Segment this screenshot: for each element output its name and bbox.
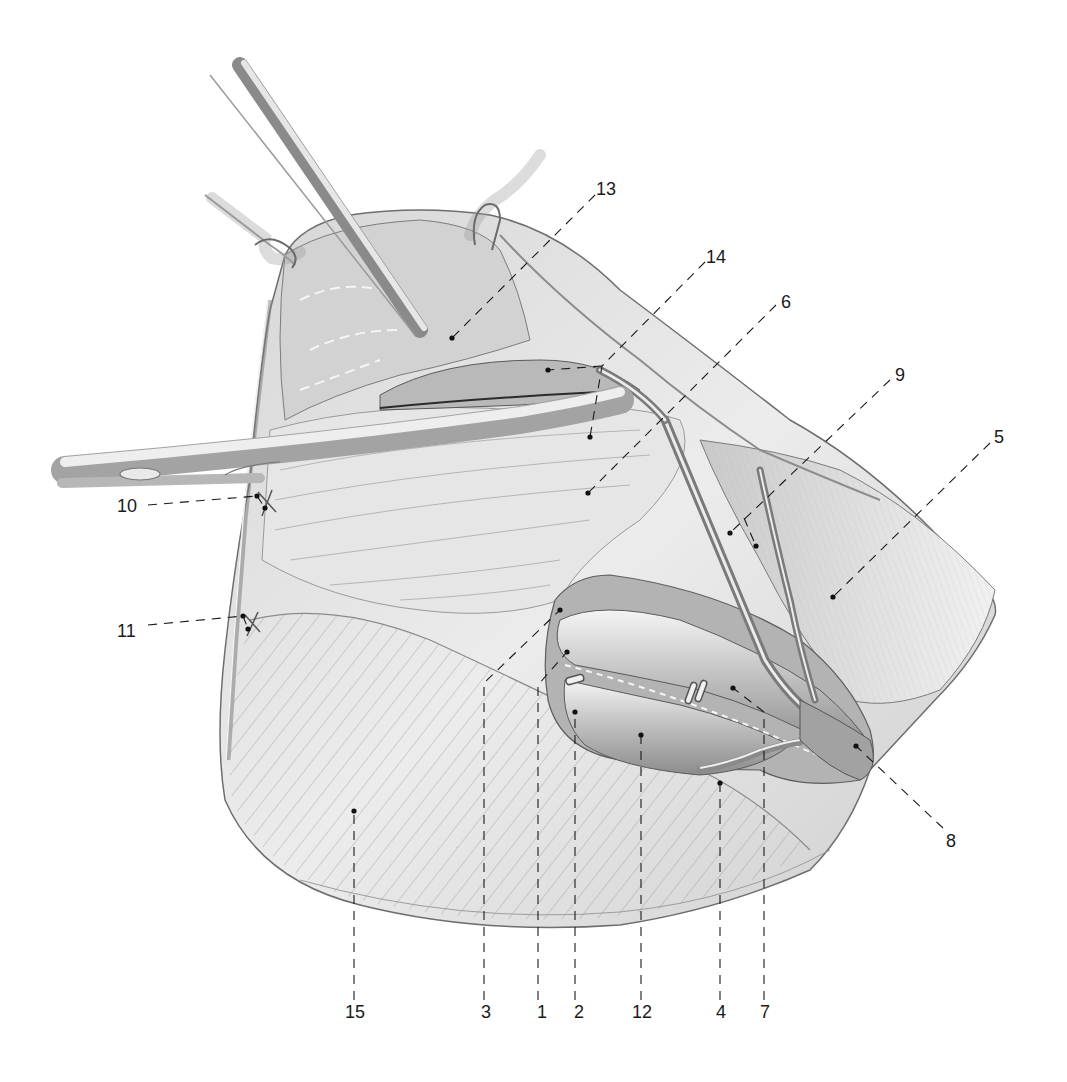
leader-dot-1 [564,649,569,654]
callout-label-2: 2 [574,1003,584,1021]
leader-dot-10-b [262,505,267,510]
callout-label-10: 10 [117,497,137,515]
leader-dot-2 [572,709,577,714]
leader-dot-9 [727,530,732,535]
illustration-canvas: 1 2 3 4 5 6 7 8 9 10 11 12 13 14 15 [0,0,1067,1082]
operative-field [220,210,996,928]
leader-line-8 [856,746,943,828]
surgical-field-drawing [0,0,1067,1082]
leader-dot-6 [585,490,590,495]
callout-label-1: 1 [537,1003,547,1021]
callout-label-15: 15 [345,1003,365,1021]
leader-dot-12 [638,732,643,737]
callout-label-11: 11 [117,622,136,640]
leader-dot-13 [449,335,454,340]
callout-label-5: 5 [994,428,1004,446]
leader-line-10 [148,496,257,505]
leader-dot-15 [351,808,356,813]
callout-label-8: 8 [946,832,956,850]
callout-label-4: 4 [716,1003,726,1021]
callout-label-14: 14 [706,248,726,266]
leader-dot-7 [730,685,735,690]
callout-label-9: 9 [895,366,905,384]
leader-dot-11-b [245,626,250,631]
leader-dot-4 [717,780,722,785]
leader-dot-14-b [545,367,550,372]
leader-dot-9-b [753,543,758,548]
leader-dot-14 [587,434,592,439]
leader-dot-8 [853,743,858,748]
callout-label-13: 13 [596,180,616,198]
leader-dot-5 [830,594,835,599]
callout-label-6: 6 [781,293,791,311]
callout-label-7: 7 [760,1003,770,1021]
callout-label-3: 3 [481,1003,491,1021]
callout-label-12: 12 [632,1003,652,1021]
leader-dot-3 [557,607,562,612]
